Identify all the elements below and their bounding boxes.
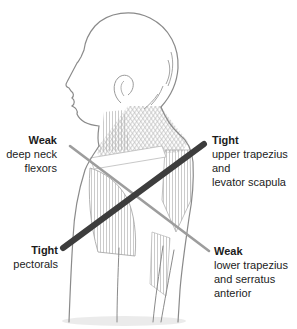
label-line: levator scapula — [212, 175, 296, 189]
label-line: pectorals — [0, 257, 58, 271]
ear-outline — [114, 75, 133, 103]
label-line: lower trapezius — [214, 258, 297, 272]
label-weak-lower-trapezius: Weak lower trapezius and serratus anteri… — [214, 244, 297, 300]
label-heading: Tight — [212, 133, 296, 147]
label-line: and serratus — [214, 272, 297, 286]
arm-front-line — [117, 248, 119, 322]
label-tight-pectorals: Tight pectorals — [0, 243, 58, 271]
label-tight-upper-trapezius: Tight upper trapezius and levator scapul… — [212, 133, 296, 189]
hair-strokes — [144, 52, 173, 109]
label-weak-deep-neck-flexors: Weak deep neck flexors — [0, 133, 57, 175]
label-line: upper trapezius — [212, 147, 296, 161]
label-line: flexors — [0, 161, 57, 175]
ground-shadow — [62, 316, 186, 326]
label-heading: Weak — [0, 133, 57, 147]
label-line: deep neck — [0, 147, 57, 161]
label-heading: Tight — [0, 243, 58, 257]
muscle-hatching — [89, 106, 191, 296]
label-heading: Weak — [214, 244, 297, 258]
posture-diagram: Weak deep neck flexors Tight upper trape… — [0, 0, 297, 329]
label-line: and — [212, 161, 296, 175]
label-line: anterior — [214, 286, 297, 300]
